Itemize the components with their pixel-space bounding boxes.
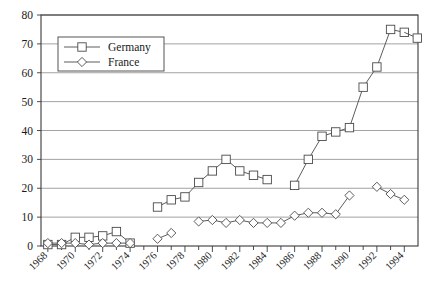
x-tick-label: 1978 [164,250,187,273]
x-tick-label: 1974 [109,249,132,272]
data-point-diamond [167,228,176,237]
data-point-diamond [276,218,285,227]
x-tick-label: 1986 [273,250,296,273]
y-tick-label: 50 [22,96,34,108]
legend-label-germany: Germany [108,41,151,54]
data-point-square [167,196,175,204]
series-germany-trailing [404,32,421,42]
data-point-square [153,203,161,211]
data-point-square [249,171,257,179]
y-tick-label: 30 [22,153,34,165]
y-tick-label: 80 [22,9,34,21]
data-point-square [413,34,421,42]
x-tick-label: 1972 [81,250,104,273]
line-chart: 0102030405060708019681970197219741976197… [0,0,437,286]
data-point-square [222,155,230,163]
x-tick-label: 1982 [219,250,242,273]
data-point-square [373,63,381,71]
data-point-square [112,227,120,235]
y-tick-label: 70 [22,38,34,50]
x-tick-label: 1968 [27,250,50,273]
data-point-square [194,178,202,186]
data-point-diamond [386,189,395,198]
data-point-square [290,181,298,189]
x-tick-label: 1988 [301,250,324,273]
data-point-diamond [317,208,326,217]
data-point-diamond [263,218,272,227]
chart-container: 0102030405060708019681970197219741976197… [0,0,437,286]
legend-label-france: France [108,56,139,68]
y-tick-label: 60 [22,67,34,79]
data-point-square [263,175,271,183]
y-tick-label: 20 [22,182,34,194]
y-tick-label: 0 [27,240,33,252]
y-tick-label: 40 [22,125,34,137]
data-point-square [332,128,340,136]
data-point-square [304,155,312,163]
data-point-diamond [153,234,162,243]
data-point-diamond [221,218,230,227]
data-point-square [386,25,394,33]
data-point-diamond [400,195,409,204]
x-axis-labels: 1968197019721974197619781980198219841986… [27,249,407,272]
data-point-diamond [290,211,299,220]
x-tick-label: 1994 [383,249,406,272]
data-point-square [318,132,326,140]
x-tick-label: 1984 [246,249,269,272]
y-axis-labels: 01020304050607080 [22,9,42,252]
y-tick-label: 10 [22,211,34,223]
data-point-diamond [194,217,203,226]
x-tick-label: 1992 [356,250,379,273]
data-point-square [400,28,408,36]
x-tick-label: 1980 [191,250,214,273]
data-point-square [208,167,216,175]
x-tick-label: 1976 [136,250,159,273]
x-tick-label: 1970 [54,250,77,273]
data-point-square [78,43,86,51]
data-point-square [359,83,367,91]
x-tick-label: 1990 [328,250,351,273]
data-point-diamond [372,182,381,191]
data-point-diamond [304,208,313,217]
data-point-diamond [345,191,354,200]
data-point-square [345,123,353,131]
data-point-square [181,193,189,201]
data-point-diamond [249,218,258,227]
legend: GermanyFrance [58,37,164,71]
series-line [199,195,350,222]
data-point-square [236,167,244,175]
